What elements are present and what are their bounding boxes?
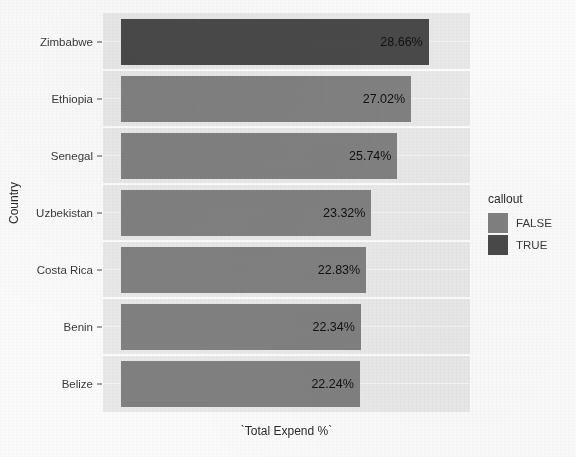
y-tick-mark [97,383,102,384]
bar-value-label: 28.66% [380,35,428,49]
bar-value-label: 23.32% [323,206,371,220]
y-tick-label-belize: Belize [62,378,97,390]
plot-panel: 28.66%27.02%25.74%23.32%22.83%22.34%22.2… [103,13,470,412]
bar-zimbabwe[interactable]: 28.66% [121,19,429,65]
y-tick-label-costa-rica: Costa Rica [37,264,97,276]
y-axis: ZimbabweEthiopiaSenegalUzbekistanCosta R… [0,0,97,457]
y-tick-mark [97,41,102,42]
bar-value-label: 22.83% [318,263,366,277]
bar-costa-rica[interactable]: 22.83% [121,247,366,293]
legend-item-false[interactable]: FALSE [488,212,552,234]
legend-label: FALSE [516,217,552,229]
gridline-major [103,183,470,184]
legend-label: TRUE [516,239,547,251]
bar-benin[interactable]: 22.34% [121,304,361,350]
y-tick-mark [97,269,102,270]
bar-ethiopia[interactable]: 27.02% [121,76,411,122]
chart-root: notes from the scanned document bleed-th… [0,0,576,457]
gridline-major [103,126,470,127]
y-tick-label-zimbabwe: Zimbabwe [40,36,97,48]
gridline-major [103,354,470,355]
legend: callout FALSETRUE [488,192,552,256]
y-tick-mark [97,155,102,156]
bar-value-label: 25.74% [349,149,397,163]
y-tick-mark [97,326,102,327]
y-tick-mark [97,98,102,99]
bar-value-label: 22.34% [312,320,360,334]
bar-value-label: 27.02% [363,92,411,106]
y-tick-label-ethiopia: Ethiopia [51,93,97,105]
bar-uzbekistan[interactable]: 23.32% [121,190,371,236]
y-tick-label-uzbekistan: Uzbekistan [36,207,97,219]
y-tick-mark [97,212,102,213]
y-tick-label-benin: Benin [64,321,97,333]
legend-item-true[interactable]: TRUE [488,234,552,256]
bar-belize[interactable]: 22.24% [121,361,360,407]
x-axis-title: `Total Expend %` [103,424,470,438]
legend-swatch-true [488,235,508,255]
bar-value-label: 22.24% [311,377,359,391]
gridline-major [103,297,470,298]
legend-title: callout [488,192,552,206]
bar-senegal[interactable]: 25.74% [121,133,397,179]
legend-swatch-false [488,213,508,233]
y-tick-label-senegal: Senegal [51,150,97,162]
gridline-major [103,69,470,70]
legend-entries: FALSETRUE [488,212,552,256]
gridline-major [103,240,470,241]
